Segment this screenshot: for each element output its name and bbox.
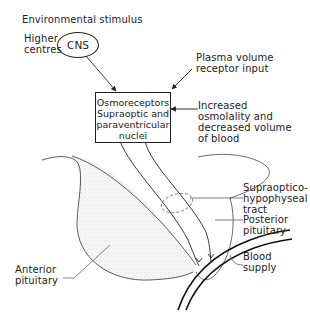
- cns-to-box-arrow: [86, 56, 116, 91]
- blood-vessel-inner: [186, 239, 292, 310]
- nerve-terminal-2: [208, 254, 214, 258]
- tract-dashed-ellipse: [159, 190, 195, 216]
- osmolality-line1: Increased: [198, 100, 292, 111]
- anterior-pituitary-label: Anterior pituitary: [15, 264, 58, 286]
- osmoreceptor-line2: Supraoptic and: [96, 108, 170, 119]
- environmental-stimulus-title: Environmental stimulus: [22, 14, 142, 25]
- posterior-line2: pituitary: [243, 225, 288, 236]
- blood-line1: Blood: [243, 251, 277, 262]
- anterior-line1: Anterior: [15, 264, 58, 275]
- osmoreceptor-box: Osmoreceptors Supraoptic and paraventric…: [95, 92, 171, 143]
- higher-centres-line1: Higher: [24, 33, 54, 44]
- osmolality-label: Increased osmolality and decreased volum…: [198, 100, 292, 144]
- anterior-pituitary-shape: [72, 157, 196, 280]
- osmoreceptor-line4: nuclei: [96, 130, 170, 141]
- cns-node: CNS: [57, 32, 99, 58]
- posterior-line1: Posterior: [243, 214, 288, 225]
- higher-centres-line2: centres: [24, 44, 54, 55]
- higher-centres-label: Higher centres: [24, 33, 54, 55]
- osmoreceptor-line1: Osmoreceptors: [96, 97, 170, 108]
- osmolality-line2: osmolality and: [198, 111, 292, 122]
- osmolality-line4: of blood: [198, 133, 292, 144]
- posterior-pituitary-label: Posterior pituitary: [243, 214, 288, 236]
- blood-supply-label: Blood supply: [243, 251, 277, 273]
- osmolality-line3: decreased volume: [198, 122, 292, 133]
- anterior-line2: pituitary: [15, 275, 58, 286]
- plasma-volume-line2: receptor input: [196, 63, 274, 74]
- plasma-volume-label: Plasma volume receptor input: [196, 52, 274, 74]
- plasma-volume-line1: Plasma volume: [196, 52, 274, 63]
- tract-line1: Supraoptico-: [243, 182, 308, 193]
- osmoreceptor-line3: paraventricular: [96, 119, 170, 130]
- blood-line2: supply: [243, 262, 277, 273]
- supraoptico-hypophyseal-tract-label: Supraoptico- hypophyseal tract: [243, 182, 308, 215]
- plasma-volume-arrow: [172, 69, 192, 89]
- tract-line2: hypophyseal: [243, 193, 308, 204]
